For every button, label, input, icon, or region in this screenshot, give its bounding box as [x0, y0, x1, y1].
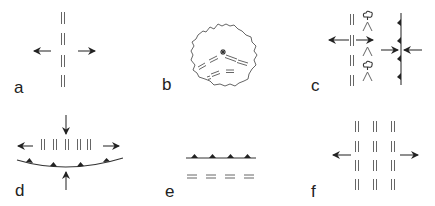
paired-marks-row: [42, 139, 91, 150]
panel-label-e: e: [165, 182, 174, 201]
panel-label-d: d: [15, 181, 24, 200]
paired-marks-horizontal: [187, 175, 254, 178]
panel-a: a: [14, 12, 95, 97]
panel-e: e: [165, 154, 256, 201]
panel-d: d: [15, 115, 123, 200]
paired-marks-column: [62, 12, 65, 87]
blob-outline: [191, 24, 257, 86]
star-symbol-icon: [220, 49, 226, 55]
panel-b: b: [162, 24, 257, 94]
wedge-symbols: [363, 22, 372, 81]
panel-label-c: c: [311, 76, 320, 95]
figure-canvas: a b: [0, 0, 435, 206]
panel-label-f: f: [311, 182, 316, 201]
panel-c: c: [311, 11, 422, 95]
paired-marks-column: [351, 14, 354, 86]
radiating-paired-marks: [198, 55, 248, 80]
cloud-symbol-icon: [363, 11, 372, 70]
panel-label-a: a: [14, 78, 24, 97]
paired-marks-grid: [356, 121, 395, 190]
thrust-teeth: [191, 154, 251, 158]
panel-label-b: b: [162, 75, 171, 94]
panel-f: f: [311, 121, 418, 201]
